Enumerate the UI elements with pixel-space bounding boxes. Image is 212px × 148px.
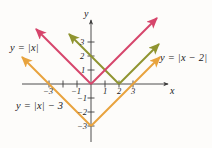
y-tick-label-2: 2 xyxy=(80,51,84,61)
y-axis-label: y xyxy=(84,8,88,19)
x-tick-label-2: 2 xyxy=(117,86,121,96)
y-tick-label-neg2: −2 xyxy=(77,107,87,117)
curve-abs-x xyxy=(36,18,157,84)
graph-canvas xyxy=(0,0,212,148)
curve-label-abs-x-minus-3: y = |x| − 3 xyxy=(16,100,63,111)
x-tick-label-3: 3 xyxy=(131,86,135,96)
x-tick-label-1: 1 xyxy=(103,86,107,96)
curve-label-abs-x-minus-2: y = |x − 2| xyxy=(160,52,207,63)
x-tick-label-neg3: −3 xyxy=(43,86,53,96)
curve-label-abs-x: y = |x| xyxy=(10,42,39,53)
y-tick-label-1: 1 xyxy=(81,65,85,75)
y-tick-label-3: 3 xyxy=(80,37,84,47)
x-axis-label: x xyxy=(170,85,174,96)
y-tick-label-neg1: −1 xyxy=(77,93,87,103)
y-tick-label-neg3: −3 xyxy=(77,121,87,131)
absolute-value-graph-figure: y x −3 −1 1 2 3 3 2 1 −1 −2 −3 y = |x| y… xyxy=(0,0,212,148)
